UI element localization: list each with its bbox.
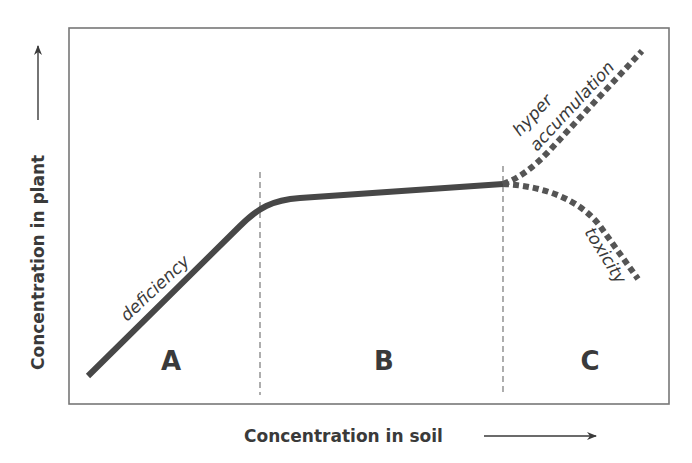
toxicity-label: toxicity: [581, 224, 632, 289]
region-a-label: A: [161, 346, 181, 376]
region-c-label: C: [580, 346, 599, 376]
region-b-label: B: [374, 346, 394, 376]
y-axis-label: Concentration in plant: [28, 155, 48, 370]
x-axis-label: Concentration in soil: [244, 426, 443, 446]
plant-soil-concentration-diagram: deficiency hyper accumulation toxicity A…: [0, 0, 692, 463]
